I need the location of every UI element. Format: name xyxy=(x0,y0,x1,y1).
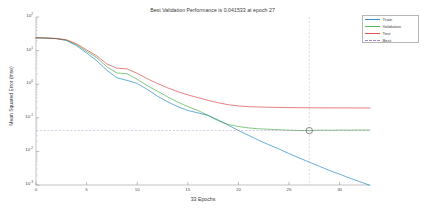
legend-label: Best xyxy=(383,38,392,43)
series-line-test xyxy=(36,38,370,108)
legend-item-validation[interactable]: Validation xyxy=(363,24,418,30)
series-line-train xyxy=(36,38,370,185)
legend-swatch-train-icon xyxy=(365,19,380,20)
legend-label: Validation xyxy=(383,24,402,29)
legend-swatch-best-icon xyxy=(365,40,380,41)
legend-item-best[interactable]: Best xyxy=(363,38,418,44)
best-marker xyxy=(36,17,370,185)
x-axis-ticks xyxy=(36,182,340,185)
legend-swatch-test-icon xyxy=(365,33,380,34)
legend-swatch-validation-icon xyxy=(365,26,380,27)
legend-item-train[interactable]: Train xyxy=(363,17,418,23)
series-line-validation xyxy=(36,38,370,131)
performance-plot-figure: Best Validation Performance is 0.041533 … xyxy=(0,0,425,213)
y-axis-ticks xyxy=(36,17,39,185)
legend-item-test[interactable]: Test xyxy=(363,31,418,37)
legend-label: Train xyxy=(383,17,393,22)
series-lines xyxy=(36,38,370,185)
legend: TrainValidationTestBest xyxy=(362,15,419,43)
axis-frame xyxy=(36,17,370,185)
legend-label: Test xyxy=(383,31,391,36)
